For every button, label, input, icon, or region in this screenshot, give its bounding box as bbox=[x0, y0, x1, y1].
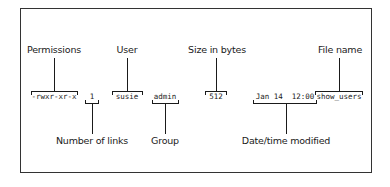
connector-size bbox=[216, 58, 217, 92]
connector-links bbox=[92, 104, 93, 134]
label-links: Number of links bbox=[56, 135, 128, 146]
label-permissions: Permissions bbox=[27, 44, 81, 55]
connector-group bbox=[165, 104, 166, 134]
label-filename: File name bbox=[318, 44, 362, 55]
field-size: 512 bbox=[209, 92, 223, 101]
connector-user bbox=[127, 58, 128, 92]
field-filename: show_users bbox=[316, 92, 361, 101]
label-size: Size in bytes bbox=[188, 44, 246, 55]
label-group: Group bbox=[151, 135, 179, 146]
label-user: User bbox=[117, 44, 138, 55]
label-datetime: Date/time modified bbox=[242, 135, 330, 146]
connector-permissions bbox=[54, 58, 55, 92]
field-user: susie bbox=[116, 92, 139, 101]
field-permissions: -rwxr-xr-x bbox=[31, 92, 76, 101]
bracket-datetime bbox=[253, 100, 317, 104]
connector-filename bbox=[339, 58, 340, 92]
connector-datetime bbox=[286, 104, 287, 134]
